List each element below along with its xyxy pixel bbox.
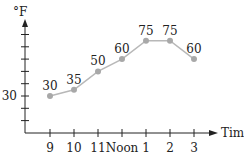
data-point [71, 87, 77, 93]
x-axis-tick-labels: 91011Noon123 [46, 141, 198, 155]
x-tick-label: 9 [46, 141, 54, 155]
data-label: 75 [138, 24, 153, 38]
data-point [167, 38, 173, 44]
temperature-line-chart: °F Time 91011Noon123 30 30355060757560 [0, 0, 244, 156]
data-point [143, 38, 149, 44]
data-label: 35 [66, 73, 81, 87]
x-tick-label: 11 [90, 141, 105, 155]
data-label: 60 [114, 42, 129, 56]
y-tick-label: 30 [2, 89, 17, 103]
data-point [191, 56, 197, 62]
x-tick-label: Noon [106, 141, 139, 155]
x-tick-label: 1 [142, 141, 150, 155]
data-point [47, 93, 53, 99]
data-point [95, 68, 101, 74]
data-label: 60 [186, 42, 201, 56]
y-axis-label: °F [13, 5, 27, 19]
x-tick-label: 2 [166, 141, 174, 155]
data-label: 30 [42, 79, 57, 93]
data-label: 75 [162, 24, 177, 38]
x-axis-arrow-icon [209, 130, 218, 136]
x-axis-label: Time [221, 126, 244, 140]
data-label: 50 [90, 54, 105, 68]
y-axis-arrow-icon [22, 19, 28, 27]
x-tick-label: 10 [66, 141, 81, 155]
x-tick-label: 3 [190, 141, 198, 155]
y-axis-tick-labels: 30 [2, 89, 17, 103]
data-point [119, 56, 125, 62]
